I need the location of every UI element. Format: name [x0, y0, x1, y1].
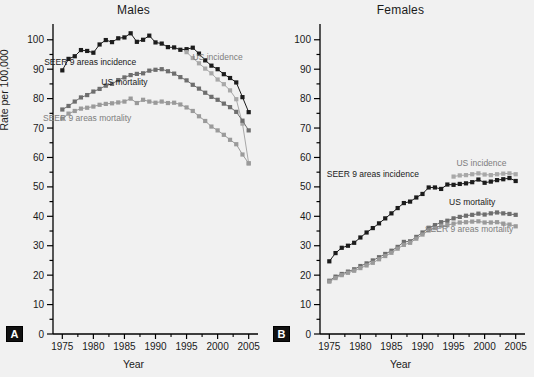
- series-marker-1: [495, 172, 499, 176]
- series-marker-2: [445, 219, 449, 223]
- series-marker-3: [514, 224, 518, 228]
- series-marker-3: [333, 276, 337, 280]
- y-tick-100: 100: [294, 34, 311, 45]
- figure-root: Males Rate per 100,000 Year A 0102030405…: [0, 0, 534, 377]
- series-marker-3: [110, 101, 114, 105]
- series-marker-3: [371, 261, 375, 265]
- series-marker-2: [209, 95, 213, 99]
- series-marker-0: [209, 64, 213, 68]
- series-marker-1: [184, 50, 188, 54]
- series-marker-0: [451, 183, 455, 187]
- series-marker-3: [216, 128, 220, 132]
- series-marker-3: [414, 237, 418, 241]
- series-marker-0: [501, 177, 505, 181]
- series-marker-0: [364, 230, 368, 234]
- series-marker-2: [483, 212, 487, 216]
- series-marker-0: [191, 46, 195, 50]
- y-tick-50: 50: [300, 181, 312, 192]
- series-marker-2: [458, 215, 462, 219]
- series-marker-0: [222, 72, 226, 76]
- series-marker-3: [383, 254, 387, 258]
- series-marker-0: [352, 241, 356, 245]
- x-tick-1980: 1980: [82, 341, 105, 352]
- series-marker-2: [66, 104, 70, 108]
- series-marker-2: [166, 69, 170, 73]
- series-marker-1: [514, 172, 518, 176]
- series-annotation-2: US mortality: [101, 77, 148, 87]
- series-annotation-1: US incidence: [193, 52, 243, 62]
- series-marker-3: [166, 101, 170, 105]
- series-marker-0: [439, 187, 443, 191]
- series-marker-2: [178, 75, 182, 79]
- series-marker-3: [346, 271, 350, 275]
- series-marker-2: [135, 72, 139, 76]
- series-marker-0: [97, 42, 101, 46]
- y-tick-60: 60: [300, 152, 312, 163]
- x-tick-1985: 1985: [380, 341, 403, 352]
- series-marker-3: [358, 266, 362, 270]
- y-tick-30: 30: [33, 240, 45, 251]
- series-marker-3: [327, 280, 331, 284]
- y-tick-0: 0: [38, 329, 44, 340]
- series-marker-2: [141, 71, 145, 75]
- series-line-0: [62, 33, 248, 112]
- series-marker-0: [333, 251, 337, 255]
- series-marker-0: [91, 51, 95, 55]
- series-marker-0: [240, 95, 244, 99]
- series-marker-0: [346, 244, 350, 248]
- series-marker-0: [178, 48, 182, 52]
- x-tick-1975: 1975: [51, 341, 74, 352]
- series-marker-0: [377, 221, 381, 225]
- series-marker-2: [451, 216, 455, 220]
- series-marker-2: [172, 72, 176, 76]
- series-marker-1: [507, 171, 511, 175]
- series-marker-1: [489, 173, 493, 177]
- series-marker-0: [489, 179, 493, 183]
- series-marker-0: [60, 68, 64, 72]
- series-marker-0: [166, 45, 170, 49]
- series-marker-1: [234, 97, 238, 101]
- series-marker-0: [160, 41, 164, 45]
- series-marker-3: [203, 119, 207, 123]
- series-marker-0: [147, 34, 151, 38]
- y-tick-10: 10: [33, 299, 45, 310]
- series-marker-0: [476, 177, 480, 181]
- series-marker-1: [228, 88, 232, 92]
- series-annotation-0: SEER 9 areas incidence: [44, 57, 136, 67]
- x-tick-1985: 1985: [113, 341, 136, 352]
- series-marker-0: [327, 259, 331, 263]
- y-tick-70: 70: [33, 123, 45, 134]
- series-marker-2: [85, 93, 89, 97]
- panel-b-plot: 0102030405060708090100197519801985199019…: [267, 0, 534, 377]
- series-marker-0: [153, 40, 157, 44]
- series-marker-2: [160, 67, 164, 71]
- y-tick-80: 80: [33, 93, 45, 104]
- series-marker-2: [79, 95, 83, 99]
- y-tick-40: 40: [33, 211, 45, 222]
- series-marker-3: [340, 273, 344, 277]
- series-marker-3: [97, 103, 101, 107]
- series-marker-3: [247, 161, 251, 165]
- series-marker-0: [79, 48, 83, 52]
- y-tick-100: 100: [27, 34, 44, 45]
- series-marker-1: [501, 172, 505, 176]
- series-marker-3: [147, 99, 151, 103]
- x-tick-2000: 2000: [206, 341, 229, 352]
- series-marker-2: [489, 211, 493, 215]
- series-marker-3: [184, 105, 188, 109]
- series-marker-2: [470, 213, 474, 217]
- series-marker-3: [408, 241, 412, 245]
- y-tick-90: 90: [33, 64, 45, 75]
- series-annotation-0: SEER 9 areas incidence: [327, 169, 419, 179]
- series-marker-0: [414, 195, 418, 199]
- y-tick-10: 10: [300, 299, 312, 310]
- series-marker-0: [402, 201, 406, 205]
- series-line-3: [62, 99, 248, 164]
- series-marker-1: [216, 77, 220, 81]
- series-marker-3: [197, 114, 201, 118]
- series-marker-0: [445, 182, 449, 186]
- series-annotation-3: SEER 9 areas mortality: [425, 224, 514, 234]
- series-marker-3: [160, 99, 164, 103]
- y-tick-50: 50: [33, 181, 45, 192]
- x-tick-2005: 2005: [505, 341, 528, 352]
